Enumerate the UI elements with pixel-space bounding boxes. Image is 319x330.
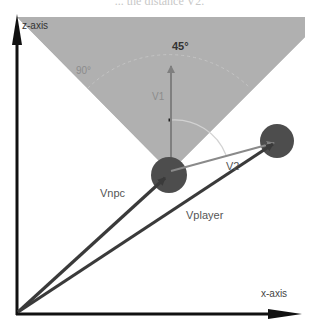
- vplayer-label: Vplayer: [186, 209, 223, 221]
- angle-90-label: 90°: [76, 65, 91, 76]
- player-circle: [260, 124, 294, 158]
- vnpc-label: Vnpc: [100, 187, 125, 199]
- x-axis-label: x-axis: [261, 288, 287, 299]
- angle-45-label: 45°: [172, 40, 189, 52]
- diagram-canvas: [0, 0, 319, 330]
- v1-label: V1: [152, 91, 164, 102]
- vnpc-vector: [18, 178, 165, 312]
- x-axis-arrowhead: [268, 309, 302, 319]
- z-axis-label: z-axis: [22, 20, 48, 31]
- v2-label: V2: [226, 160, 239, 172]
